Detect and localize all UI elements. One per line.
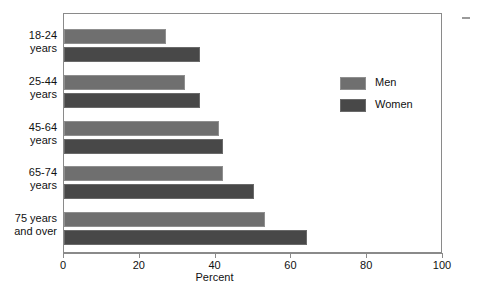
x-axis-title-text: Percent: [196, 271, 234, 283]
bar-women-group-5: [64, 230, 307, 245]
category-label-line2: and over: [0, 225, 57, 238]
bar-men-group-5: [64, 212, 265, 227]
bar-men-group-4: [64, 166, 223, 181]
category-label-line1: 25-44: [0, 75, 57, 88]
category-label-5: 75 yearsand over: [0, 212, 57, 237]
bar-men-group-2: [64, 75, 185, 90]
legend-label-women: Women: [375, 98, 413, 110]
plot-area: [63, 13, 442, 253]
x-tick-label-0: 0: [60, 259, 66, 271]
x-tick-80: [366, 253, 367, 258]
scan-artifact-mark: [462, 17, 470, 19]
category-label-line2: years: [0, 88, 57, 101]
x-tick-60: [290, 253, 291, 258]
x-tick-100: [442, 253, 443, 258]
bar-women-group-4: [64, 184, 254, 199]
bar-chart: 18-24years25-44years45-64years65-74years…: [0, 0, 477, 295]
x-axis-line: [63, 253, 442, 254]
legend-swatch-men-icon: [340, 77, 366, 90]
x-tick-label-40: 40: [208, 259, 220, 271]
bar-women-group-3: [64, 139, 223, 154]
legend-label-men: Men: [375, 76, 396, 88]
legend-swatch-women-icon: [340, 99, 366, 112]
category-label-line1: 45-64: [0, 121, 57, 134]
bar-men-group-3: [64, 121, 219, 136]
x-tick-40: [215, 253, 216, 258]
category-label-1: 18-24years: [0, 29, 57, 54]
x-tick-label-100: 100: [433, 259, 451, 271]
x-tick-label-60: 60: [284, 259, 296, 271]
bar-men-group-1: [64, 29, 166, 44]
category-label-line1: 75 years: [0, 212, 57, 225]
category-label-line2: years: [0, 42, 57, 55]
bar-women-group-2: [64, 93, 200, 108]
bar-women-group-1: [64, 47, 200, 62]
x-axis-title: Percent: [0, 271, 477, 283]
x-tick-20: [139, 253, 140, 258]
x-tick-label-80: 80: [360, 259, 372, 271]
category-label-line2: years: [0, 179, 57, 192]
category-label-3: 45-64years: [0, 121, 57, 146]
category-label-line1: 18-24: [0, 29, 57, 42]
category-label-4: 65-74years: [0, 166, 57, 191]
category-label-line1: 65-74: [0, 166, 57, 179]
category-label-2: 25-44years: [0, 75, 57, 100]
x-tick-label-20: 20: [133, 259, 145, 271]
x-tick-0: [63, 253, 64, 258]
category-label-line2: years: [0, 134, 57, 147]
